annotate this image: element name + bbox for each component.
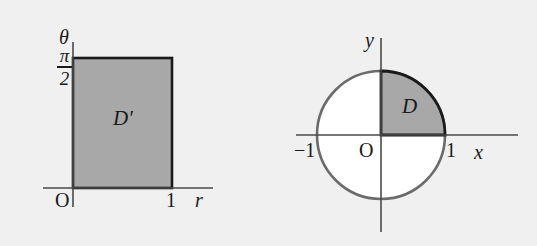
- cartesian-disc-graphic: [268, 0, 537, 246]
- panel-polar-rectangle: θ π 2 O 1 r D′: [0, 0, 269, 246]
- region-label-d: D: [402, 96, 417, 117]
- tick-label-x-minus-one: −1: [294, 140, 315, 160]
- figure-canvas: θ π 2 O 1 r D′ y −1: [0, 0, 537, 246]
- polar-rectangle-graphic: [0, 0, 269, 246]
- panel-cartesian-disc: y −1 O 1 x D: [268, 0, 537, 246]
- axis-label-x: x: [474, 142, 483, 162]
- tick-pi-denominator: 2: [59, 69, 71, 88]
- axis-label-y: y: [365, 30, 374, 50]
- origin-label-polar: O: [55, 190, 69, 210]
- origin-label-cartesian: O: [359, 140, 373, 160]
- tick-label-pi-over-two: π 2: [57, 46, 72, 88]
- axis-label-r: r: [195, 190, 203, 210]
- tick-label-x-one: 1: [446, 140, 456, 160]
- tick-label-r-one: 1: [166, 190, 176, 210]
- tick-pi-numerator: π: [59, 46, 71, 65]
- axis-label-theta: θ: [59, 27, 69, 47]
- region-label-d-prime: D′: [113, 108, 133, 129]
